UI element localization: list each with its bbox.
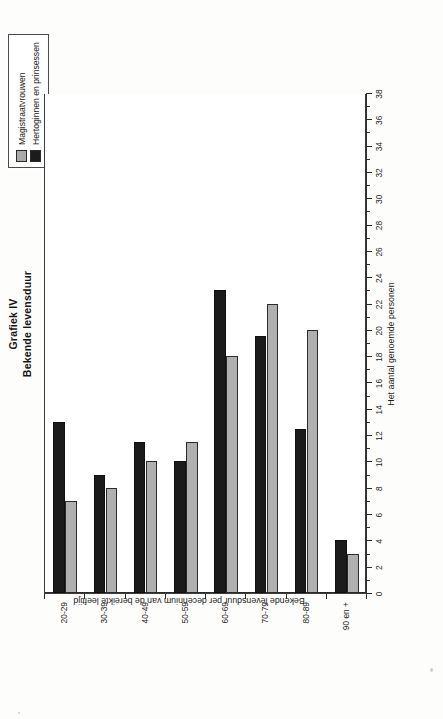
value-axis-tick-label: 22 [374, 299, 384, 308]
category-axis-title: Bekende levensduur per decennium van de … [28, 596, 350, 606]
value-axis-tick [366, 224, 372, 225]
value-axis-tick [366, 106, 370, 107]
scan-speck [18, 712, 20, 714]
value-axis-tick-label: 0 [374, 591, 384, 596]
value-axis-tick [366, 579, 370, 580]
value-axis-tick [366, 250, 372, 251]
legend-item[interactable]: Hertoginnen en prinsessen [29, 42, 42, 162]
value-axis-tick-label: 12 [374, 431, 384, 440]
value-axis-tick [366, 343, 370, 344]
value-axis-tick-label: 30 [374, 194, 384, 203]
value-axis-title: Het aantal genoemde personen [386, 94, 396, 594]
value-axis-tick [366, 487, 372, 488]
value-axis-tick [366, 408, 372, 409]
value-axis-tick [366, 474, 370, 475]
value-axis-tick-label: 28 [374, 220, 384, 229]
value-axis-tick [366, 316, 370, 317]
value-axis-tick [366, 145, 372, 146]
bar-40-49-hertoginnen [133, 441, 145, 592]
value-axis-tick-label: 14 [374, 405, 384, 414]
legend-label: Magistraatvrouwen [16, 72, 26, 145]
value-axis-tick-label: 6 [374, 512, 384, 517]
value-axis-tick [366, 277, 372, 278]
plot-area [44, 94, 366, 594]
value-axis-tick-label: 10 [374, 457, 384, 466]
bars-layer [45, 94, 365, 593]
bar-80-89-magistraatvrouwen [306, 329, 318, 592]
value-axis-tick [366, 171, 372, 172]
chart-title-line-2: Bekende levensduur [20, 214, 35, 434]
scan-speck [430, 668, 433, 672]
value-axis-tick [366, 290, 370, 291]
bar-50-59-magistraatvrouwen [186, 441, 198, 592]
value-axis-tick [366, 395, 370, 396]
value-axis-tick [366, 382, 372, 383]
value-axis-tick [366, 158, 370, 159]
bar-90en-hertoginnen [335, 540, 347, 593]
value-axis-tick [366, 461, 372, 462]
legend-item[interactable]: Magistraatvrouwen [15, 42, 28, 162]
value-axis-tick [366, 264, 370, 265]
category-axis-tick [366, 594, 367, 599]
chart-figure: Grafiek IV Bekende levensduur Magistraat… [2, 26, 402, 666]
value-axis-tick [366, 198, 372, 199]
chart-title-line-1: Grafiek IV [6, 214, 20, 434]
value-axis-tick [366, 369, 370, 370]
chart-title-block: Grafiek IV Bekende levensduur [6, 214, 35, 434]
value-axis-tick [366, 435, 372, 436]
bar-20-29-hertoginnen [53, 421, 65, 592]
bar-60-69-hertoginnen [214, 290, 226, 593]
value-axis-tick [366, 527, 370, 528]
value-axis-tick-label: 36 [374, 115, 384, 124]
rotated-figure-wrapper: Grafiek IV Bekende levensduur Magistraat… [2, 26, 402, 666]
value-axis-tick [366, 303, 372, 304]
value-axis-tick-label: 32 [374, 168, 384, 177]
value-axis-tick-label: 18 [374, 352, 384, 361]
bar-60-69-magistraatvrouwen [226, 356, 238, 593]
value-axis-tick [366, 448, 370, 449]
scanned-page: Grafiek IV Bekende levensduur Magistraat… [0, 0, 443, 719]
value-axis-tick-label: 4 [374, 539, 384, 544]
chart-legend: Magistraatvrouwen Hertoginnen en prinses… [8, 34, 49, 168]
value-axis-tick [366, 119, 372, 120]
value-axis-tick [366, 566, 372, 567]
value-axis-tick-label: 16 [374, 378, 384, 387]
bar-30-39-magistraatvrouwen [105, 487, 117, 592]
value-axis-tick [366, 132, 370, 133]
value-axis-tick [366, 356, 372, 357]
legend-swatch-black-icon [30, 150, 41, 162]
value-axis-tick-label: 20 [374, 326, 384, 335]
value-axis-tick [366, 540, 372, 541]
bar-80-89-hertoginnen [294, 428, 306, 592]
value-axis-tick-label: 8 [374, 486, 384, 491]
value-axis-tick-label: 34 [374, 141, 384, 150]
legend-label: Hertoginnen en prinsessen [30, 42, 40, 145]
bar-70-79-magistraatvrouwen [266, 303, 278, 592]
value-axis-tick [366, 421, 370, 422]
value-axis-tick [366, 553, 370, 554]
value-axis-tick-label: 26 [374, 247, 384, 256]
value-axis-tick [366, 514, 372, 515]
value-axis-tick [366, 211, 370, 212]
bar-90en-magistraatvrouwen [347, 553, 359, 592]
bar-40-49-magistraatvrouwen [145, 461, 157, 593]
bar-70-79-hertoginnen [254, 336, 266, 593]
bar-50-59-hertoginnen [174, 461, 186, 593]
value-axis-tick-label: 2 [374, 565, 384, 570]
value-axis-tick [366, 185, 370, 186]
value-axis-tick [366, 93, 372, 94]
value-axis-tick-label: 38 [374, 89, 384, 98]
legend-swatch-gray-icon [16, 150, 27, 162]
value-axis-tick [366, 500, 370, 501]
value-axis-tick-label: 24 [374, 273, 384, 282]
value-axis-tick [366, 237, 370, 238]
bar-30-39-hertoginnen [93, 474, 105, 592]
value-axis-tick [366, 329, 372, 330]
bar-20-29-magistraatvrouwen [65, 500, 77, 592]
